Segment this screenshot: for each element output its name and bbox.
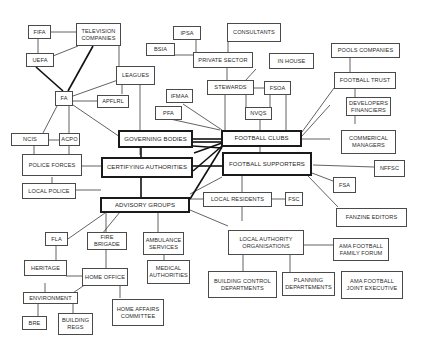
node-medical-authorities: MEDICAL AUTHORITIES: [147, 260, 190, 284]
node-football-clubs: FOOTBALL CLUBS: [221, 130, 302, 147]
node-planning-departments: PLANNING DEPARTEMENTS: [282, 272, 335, 296]
node-apflrl: APFLRL: [97, 95, 129, 108]
node-ama-football-joint-executive: AMA FOOTBALL JOINT EXECUTIVE: [341, 271, 403, 299]
node-fa: FA: [55, 91, 73, 106]
node-leagues: LEAGUES: [116, 66, 155, 85]
node-ambulance-services: AMBULANCE SERVICES: [143, 232, 184, 255]
node-in-house: IN HOUSE: [269, 53, 314, 69]
node-ama-football-family-forum: AMA FOOTBALL FAMILY FORUM: [333, 238, 389, 261]
node-fire-brigade: FIRE BRIGADE: [87, 232, 127, 250]
node-stewards: STEWARDS: [207, 80, 254, 95]
node-nffsc: NFFSC: [374, 160, 405, 177]
node-ifmaa: IFMAA: [166, 89, 193, 103]
node-private-sector: PRIVATE SECTOR: [193, 52, 253, 68]
node-environment: ENVIRONMENT: [23, 292, 78, 304]
node-certifying-authorities: CERTIFYING AUTHORITIES: [101, 157, 193, 178]
node-developers-financiers: DEVELOPERS FINANCIERS: [346, 97, 391, 116]
node-fsc: FSC: [285, 192, 303, 206]
node-pfa: PFA: [155, 106, 182, 120]
node-bsia: BSIA: [146, 43, 175, 56]
node-consultants: CONSULTANTS: [227, 23, 281, 42]
node-building-regs: BUILDING REGS: [58, 313, 93, 335]
node-fifa: FIFA: [28, 25, 51, 39]
node-fla: FLA: [45, 232, 68, 246]
node-governing-bodies: GOVERNING BODIES: [118, 130, 193, 148]
node-pools-companies: POOLS COMPANIES: [331, 43, 400, 58]
node-television-companies: TELEVISION COMPANIES: [76, 23, 121, 46]
node-ipsa: IPSA: [173, 26, 201, 40]
node-local-residents: LOCAL RESIDENTS: [203, 192, 272, 207]
node-local-authority-organisations: LOCAL AUTHORITY ORGANISATIONS: [228, 230, 304, 255]
node-uefa: UEFA: [26, 53, 54, 67]
node-fsa: FSA: [333, 177, 356, 193]
node-heritage: HERITAGE: [24, 260, 67, 276]
node-ncis: NCIS: [11, 133, 49, 146]
node-nvqs: NVQs: [245, 107, 272, 120]
node-commercial-managers: COMMERICAL MANAGERS: [341, 130, 396, 154]
node-fanzine-editors: FANZINE EDITORS: [336, 208, 407, 227]
stakeholder-diagram: FIFA TELEVISION COMPANIES UEFA LEAGUES F…: [0, 0, 429, 350]
node-football-supporters: FOOTBALL SUPPORTERS: [222, 152, 312, 176]
node-local-police: LOCAL POLICE: [22, 183, 76, 199]
node-home-affairs-committee: HOME AFFAIRS COMMITTEE: [112, 299, 164, 326]
node-bre: BRE: [22, 316, 47, 330]
node-football-trust: FOOTBALL TRUST: [334, 72, 396, 89]
node-building-control-departments: BUILDING CONTROL DEPARTMENTS: [208, 271, 277, 298]
node-police-forces: POLICE FORCES: [22, 154, 82, 176]
node-fsoa: FSOA: [264, 81, 291, 95]
node-home-office: HOME OFFICE: [82, 268, 128, 286]
node-advisory-groups: ADVISORY GROUPS: [100, 197, 190, 213]
node-acpo: ACPO: [59, 133, 80, 146]
